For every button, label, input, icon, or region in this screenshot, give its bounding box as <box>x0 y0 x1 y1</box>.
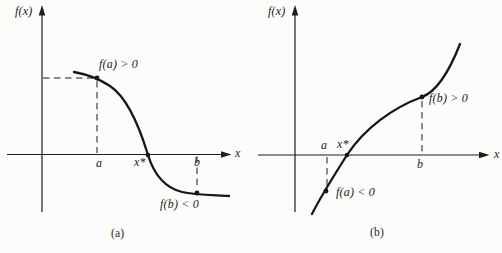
panel-b-annotation-fa: f(a) < 0 <box>336 186 375 199</box>
panel-a-point-b-dot <box>195 191 200 196</box>
panel-b-x-axis-label: x <box>494 148 500 161</box>
panel-a-x-axis-arrow-icon <box>221 151 232 158</box>
panel-a-geometry <box>7 5 232 212</box>
panel-b-label-b: b <box>417 158 423 171</box>
plot-canvas <box>0 0 502 253</box>
panel-a-x-axis-label: x <box>235 147 241 160</box>
panel-a-annotation-fb: f(b) < 0 <box>160 198 199 211</box>
panel-b-point-a-dot <box>324 189 329 194</box>
panel-a-root-dot <box>146 153 151 158</box>
panel-b-x-axis-arrow-icon <box>479 152 490 159</box>
panel-a-point-a-dot <box>95 76 100 81</box>
panel-b-root-dot <box>345 153 349 157</box>
panel-a-label-b: b <box>194 156 200 169</box>
panel-a-y-axis-arrow-icon <box>39 5 46 16</box>
panel-b-geometry <box>258 5 490 214</box>
figure-root: f(x) x f(a) > 0 a x* b f(b) < 0 (a) f(x)… <box>0 0 502 253</box>
panel-a-label-a: a <box>96 157 102 170</box>
panel-b-label-a: a <box>321 139 327 152</box>
panel-b-caption: (b) <box>370 226 384 239</box>
panel-a-function-curve <box>74 72 229 196</box>
panel-a-annotation-fa: f(a) > 0 <box>99 58 138 71</box>
panel-b-y-axis-arrow-icon <box>292 5 299 16</box>
panel-b-annotation-fb: f(b) > 0 <box>429 92 468 105</box>
panel-b-function-curve <box>312 44 460 214</box>
panel-b-label-x-star: x* <box>337 138 349 151</box>
panel-b-point-b-dot <box>420 95 425 100</box>
panel-a-caption: (a) <box>111 227 124 240</box>
panel-a-y-axis-label: f(x) <box>15 5 32 18</box>
panel-b-y-axis-label: f(x) <box>268 5 285 18</box>
panel-a-label-x-star: x* <box>134 156 146 169</box>
